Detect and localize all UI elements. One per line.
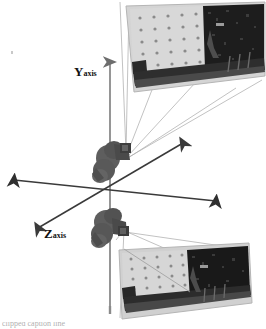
- y-axis-label-major: Y: [74, 64, 83, 79]
- lower-photo-inset: [119, 243, 252, 319]
- y-axis-label-minor: axis: [83, 69, 96, 78]
- scan-artifact-speck: [11, 51, 13, 54]
- z-axis-label-minor: axis: [53, 231, 66, 240]
- clipped-caption-strip: clipped caption line: [0, 322, 266, 329]
- y-axis-label: Yaxis: [74, 62, 97, 80]
- clipped-caption-text: clipped caption line: [2, 322, 65, 328]
- z-axis-label: Zaxis: [44, 224, 66, 242]
- figure-3d-camera-calibration: Yaxis Zaxis clipped caption line: [0, 0, 266, 329]
- z-axis-label-major: Z: [44, 226, 53, 241]
- upper-photo-inset: [126, 2, 265, 92]
- axes-and-geometry-layer: [0, 0, 266, 329]
